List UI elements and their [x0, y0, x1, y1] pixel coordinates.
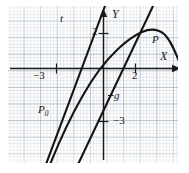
x-tick-label-2: 2	[132, 70, 138, 81]
x-tick-label-minus3: −3	[33, 70, 45, 81]
y-tick-label-minus3: −3	[113, 115, 125, 126]
point-label-P0: P0	[38, 104, 48, 118]
x-axis-arrowhead	[172, 65, 181, 72]
parabola-label-P: P	[152, 34, 159, 45]
line-label-g: g	[114, 90, 120, 101]
x-axis-label: X	[160, 50, 167, 62]
y-axis-label: Y	[112, 8, 119, 20]
point-label-P0-subscript: 0	[45, 109, 49, 118]
tangent-line-label-t: t	[60, 13, 63, 24]
line-g	[73, 6, 153, 173]
figure-container: t 2 Y X P −3 2 g P0 −3	[0, 0, 189, 173]
y-tick-label-2: 2	[92, 26, 98, 37]
point-label-P0-base: P	[38, 103, 45, 115]
